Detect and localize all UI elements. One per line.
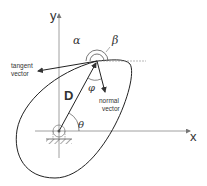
alpha-label: α — [73, 34, 81, 47]
tangent-vector — [38, 61, 97, 71]
cam-profile — [16, 60, 131, 178]
alpha-beta-angle-circles — [86, 50, 108, 61]
beta-label: β — [111, 34, 118, 47]
normal-vector — [97, 61, 105, 92]
normal-vector-label-line2: vector — [102, 105, 121, 112]
tangent-vector-label: tangent — [11, 62, 33, 70]
cam-contact-diagram: y x α β D tangent vector normal vector φ… — [0, 0, 207, 186]
d-vector-label: D — [64, 88, 73, 103]
theta-label: θ — [78, 119, 84, 130]
phi-angle-arc — [88, 78, 101, 80]
phi-label: φ — [88, 82, 95, 93]
x-axis-label: x — [190, 129, 197, 144]
tangent-vector-label-line2: vector — [11, 70, 30, 77]
ground-hatch — [46, 139, 72, 144]
normal-vector-label: normal — [99, 97, 119, 104]
y-axis-label: y — [50, 8, 57, 23]
beta-leader — [106, 47, 110, 52]
